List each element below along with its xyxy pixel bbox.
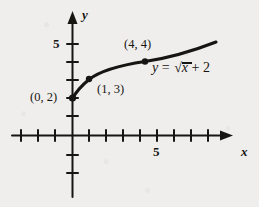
- equation-equals: =: [162, 60, 170, 75]
- radical-vinculum: [182, 62, 192, 64]
- point-4-4-marker: [142, 58, 148, 64]
- point-0-2-marker: [69, 94, 76, 101]
- x-axis-label: x: [241, 145, 248, 158]
- point-1-3-label: (1, 3): [97, 83, 124, 96]
- equation-tail: + 2: [192, 60, 210, 75]
- y-axis-label: y: [82, 8, 88, 21]
- y-axis-arrowhead: [68, 11, 78, 24]
- x-axis: [12, 130, 233, 141]
- point-4-4-label: (4, 4): [124, 38, 151, 51]
- equation-label: y = √x + 2: [152, 61, 210, 75]
- point-1-3-marker: [86, 76, 92, 82]
- graph-figure: (0, 2) (1, 3) (4, 4) 5 5 y x y = √x + 2: [0, 0, 259, 207]
- y-axis: [67, 11, 78, 197]
- x-axis-arrowhead: [220, 131, 233, 141]
- x-tick-label-5: 5: [153, 145, 160, 158]
- point-0-2-label: (0, 2): [30, 91, 57, 104]
- y-tick-label-5: 5: [53, 37, 60, 50]
- radical-sign-icon: √x: [173, 61, 188, 75]
